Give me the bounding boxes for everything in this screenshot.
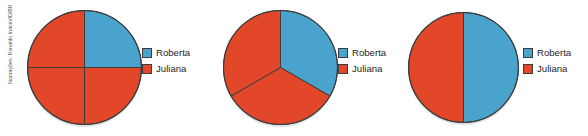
legend-label-roberta: Roberta [352, 48, 386, 58]
three-pie-charts-figure: Ilustrações: Ronaldo Inácio/ID/BR Robert… [0, 0, 588, 136]
legend-entry-roberta: Roberta [142, 46, 190, 59]
legend-label-juliana: Juliana [537, 64, 567, 74]
pie-chart-2-svg [221, 8, 340, 129]
pie-chart-2-legend: Roberta Juliana [338, 46, 386, 75]
blue-square-icon [142, 48, 152, 58]
pie-3-slice-roberta [464, 13, 519, 123]
pie-chart-1-svg [25, 8, 144, 129]
pie-chart-3-svg [406, 8, 521, 129]
illustration-credit: Ilustrações: Ronaldo Inácio/ID/BR [7, 0, 13, 84]
red-square-icon [142, 64, 152, 74]
legend-entry-juliana: Juliana [338, 62, 386, 75]
pie-1-slice-juliana-q4 [28, 11, 85, 68]
pie-chart-3-legend: Roberta Juliana [523, 46, 571, 75]
legend-entry-roberta: Roberta [338, 46, 386, 59]
legend-entry-juliana: Juliana [523, 62, 571, 75]
legend-label-roberta: Roberta [537, 48, 571, 58]
pie-1-slice-juliana-q3 [28, 68, 85, 125]
blue-square-icon [338, 48, 348, 58]
blue-square-icon [523, 48, 533, 58]
pie-chart-1-legend: Roberta Juliana [142, 46, 190, 75]
pie-1-slice-roberta-q1 [85, 11, 142, 68]
red-square-icon [338, 64, 348, 74]
legend-label-juliana: Juliana [352, 64, 382, 74]
red-square-icon [523, 64, 533, 74]
legend-entry-juliana: Juliana [142, 62, 190, 75]
legend-label-juliana: Juliana [156, 64, 186, 74]
pie-chart-3 [406, 8, 521, 129]
legend-entry-roberta: Roberta [523, 46, 571, 59]
pie-3-slice-juliana [409, 13, 464, 123]
legend-label-roberta: Roberta [156, 48, 190, 58]
pie-chart-2 [221, 8, 340, 129]
pie-1-slice-juliana-q2 [85, 68, 142, 125]
pie-chart-1 [25, 8, 144, 129]
